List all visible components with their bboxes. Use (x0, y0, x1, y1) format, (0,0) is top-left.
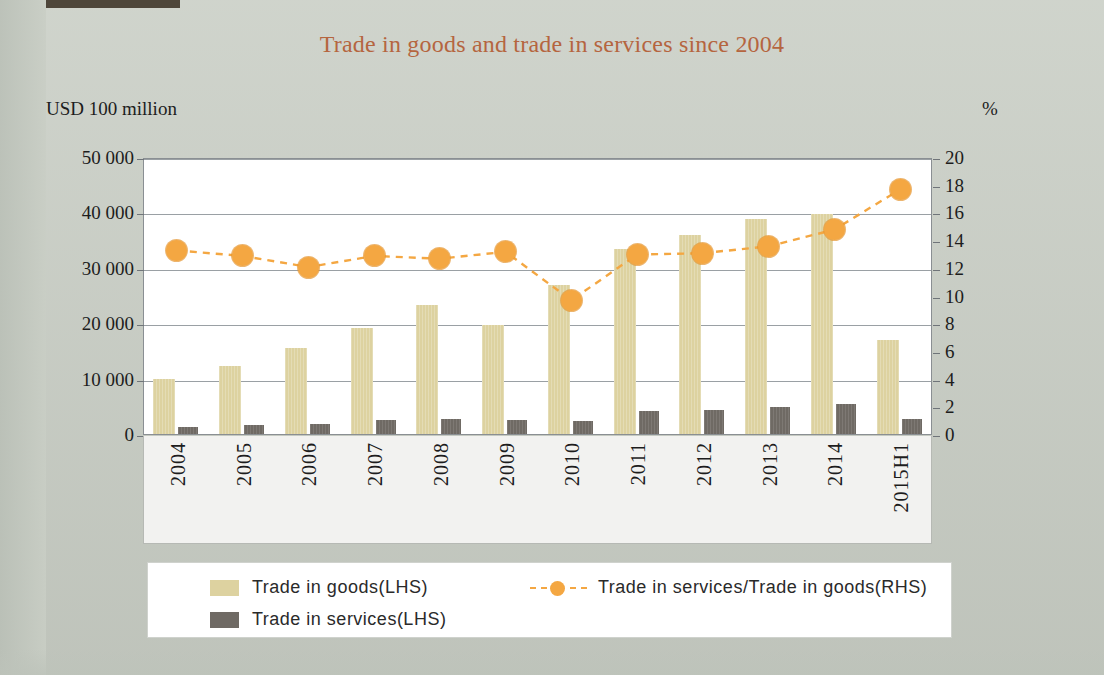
x-axis-band: 2004200520062007200820092010201120122013… (143, 436, 932, 544)
left-axis-tick-label: 40 000 (82, 202, 134, 224)
legend-dashed-line-icon (530, 580, 588, 596)
right-axis-tick-label: 16 (945, 202, 964, 224)
legend-swatch-goods-icon (210, 580, 239, 596)
x-axis-tick-label: 2009 (496, 442, 519, 486)
page-top-marker-bar (46, 0, 180, 8)
right-axis-tick (933, 381, 940, 382)
right-axis-tick (933, 159, 940, 160)
right-axis-tick (933, 270, 940, 271)
right-axis-tick (933, 408, 940, 409)
legend-item-trade-in-goods: Trade in goods(LHS) (210, 577, 428, 598)
right-axis-tick (933, 298, 940, 299)
legend-label-goods: Trade in goods(LHS) (252, 577, 428, 598)
x-axis-tick-label: 2012 (693, 442, 716, 486)
x-axis-tick-label: 2004 (167, 442, 190, 486)
right-axis-tick (933, 242, 940, 243)
scanned-page: Trade in goods and trade in services sin… (0, 0, 1104, 675)
left-axis-tick-label: 50 000 (82, 147, 134, 169)
right-axis-tick-label: 12 (945, 258, 964, 280)
ratio-line-svg (144, 159, 933, 436)
plot-area (143, 158, 932, 435)
right-axis-tick-label: 6 (945, 341, 955, 363)
left-axis-label: USD 100 million (46, 98, 177, 120)
x-axis-tick-label: 2015H1 (890, 442, 913, 512)
legend-item-services-to-goods-ratio: Trade in services/Trade in goods(RHS) (530, 577, 927, 598)
chart-legend: Trade in goods(LHS) Trade in services(LH… (147, 562, 952, 638)
left-axis-tick (137, 214, 144, 215)
x-axis-tick-label: 2013 (759, 442, 782, 486)
legend-swatch-services-icon (210, 612, 239, 628)
right-axis-label: % (982, 98, 998, 120)
x-axis-tick-label: 2010 (561, 442, 584, 486)
left-axis-tick-label: 30 000 (82, 258, 134, 280)
right-axis-tick-label: 18 (945, 175, 964, 197)
x-axis-tick-label: 2014 (824, 442, 847, 486)
right-axis-tick-label: 4 (945, 369, 955, 391)
x-axis-tick-label: 2011 (627, 442, 650, 485)
legend-label-services: Trade in services(LHS) (252, 609, 446, 630)
x-axis-tick-label: 2006 (298, 442, 321, 486)
right-axis-tick (933, 214, 940, 215)
legend-label-ratio: Trade in services/Trade in goods(RHS) (598, 577, 927, 598)
left-axis-tick-label: 0 (125, 424, 135, 446)
right-axis-tick-labels: 02468101214161820 (945, 158, 1005, 435)
left-axis-tick-label: 10 000 (82, 369, 134, 391)
page-bottom-shade (0, 649, 1104, 675)
legend-item-trade-in-services: Trade in services(LHS) (210, 609, 446, 630)
ratio-line (177, 189, 900, 300)
right-axis-tick-label: 10 (945, 286, 964, 308)
right-axis-tick-label: 20 (945, 147, 964, 169)
right-axis-tick-label: 2 (945, 396, 955, 418)
x-axis-tick-label: 2005 (233, 442, 256, 486)
right-axis-tick (933, 353, 940, 354)
left-axis-tick-label: 20 000 (82, 313, 134, 335)
right-axis-tick (933, 325, 940, 326)
x-axis-tick-label: 2008 (430, 442, 453, 486)
left-axis-tick (137, 159, 144, 160)
right-axis-tick-label: 0 (945, 424, 955, 446)
x-axis-tick-label: 2007 (364, 442, 387, 486)
chart-title: Trade in goods and trade in services sin… (0, 31, 1104, 58)
right-axis-tick (933, 187, 940, 188)
left-axis-tick (137, 381, 144, 382)
left-axis-tick (137, 325, 144, 326)
right-axis-tick-label: 14 (945, 230, 964, 252)
left-axis-tick-labels: 010 00020 00030 00040 00050 000 (36, 158, 134, 435)
right-axis-tick (933, 436, 940, 437)
left-axis-tick (137, 270, 144, 271)
right-axis-tick-label: 8 (945, 313, 955, 335)
